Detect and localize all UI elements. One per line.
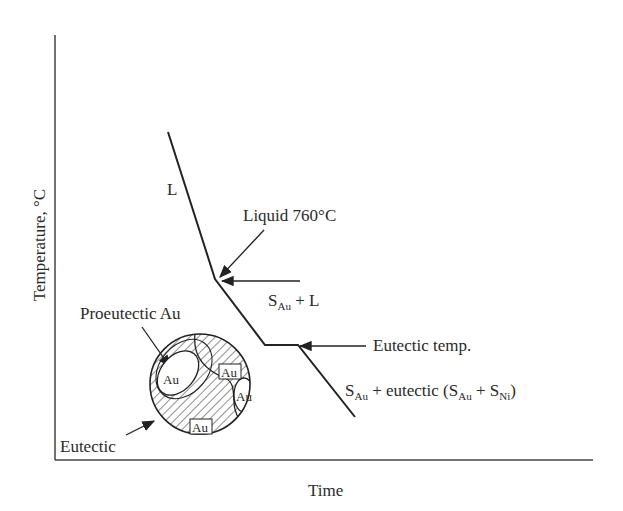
cooling-curve-diagram: [0, 0, 623, 511]
liquid-region-label: L: [167, 181, 177, 198]
rest-text: + L: [291, 291, 319, 310]
mid: + eutectic (S: [368, 381, 458, 400]
solid-plus-liquid-label: SAu + L: [268, 292, 319, 312]
eutectic-arrow: [126, 421, 154, 435]
liquidus-label: Liquid 760°C: [243, 207, 336, 224]
end: ): [510, 381, 516, 400]
s-subscript: Au: [277, 300, 290, 312]
mid2: + S: [472, 381, 500, 400]
sub2: Au: [458, 390, 471, 402]
proeutectic-label: Proeutectic Au: [80, 305, 181, 322]
grain-label-au: Au: [192, 421, 208, 434]
liquidus-arrow: [220, 230, 264, 277]
sub3: Ni: [499, 390, 510, 402]
eutectic-label: Eutectic: [60, 438, 116, 455]
x-axis-label: Time: [308, 482, 343, 499]
grain-label-au: Au: [221, 366, 237, 379]
sub1: Au: [354, 390, 367, 402]
final-phase-label: SAu + eutectic (SAu + SNi): [345, 382, 516, 402]
y-axis-label: Temperature, °C: [30, 155, 50, 335]
grain-label-au: Au: [163, 373, 179, 386]
grain-label-au: Au: [236, 390, 252, 403]
eutectic-temp-label: Eutectic temp.: [373, 337, 471, 354]
